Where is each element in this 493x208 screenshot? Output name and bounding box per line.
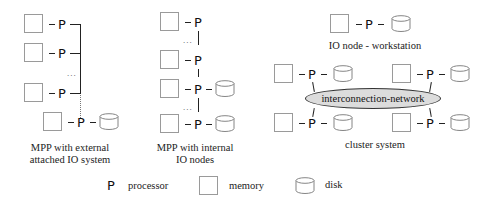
disk-icon — [450, 65, 470, 82]
memory-icon — [160, 50, 179, 69]
memory-icon — [274, 64, 293, 83]
panel-label: MPP with external attached IO system — [10, 142, 130, 166]
disk-icon — [215, 80, 235, 97]
connector — [356, 24, 362, 25]
processor-icon: P — [365, 18, 373, 31]
connector — [417, 74, 423, 75]
label-line: IO nodes — [140, 154, 250, 166]
connector — [299, 123, 305, 124]
network-link — [429, 82, 432, 92]
memory-icon — [160, 114, 179, 133]
connector — [439, 123, 445, 124]
connector — [185, 89, 191, 90]
panel-label: IO node - workstation — [320, 40, 430, 52]
memory-icon — [392, 113, 411, 132]
legend-label: memory — [229, 180, 264, 192]
connector — [68, 122, 74, 123]
processor-icon: P — [308, 68, 316, 81]
bus-line — [198, 98, 199, 112]
connector — [185, 22, 191, 23]
memory-icon — [24, 43, 43, 62]
disk-icon — [99, 113, 119, 130]
connector — [70, 24, 80, 25]
disk-icon — [333, 114, 353, 131]
memory-icon — [199, 176, 218, 195]
connector — [321, 74, 327, 75]
panel-label: MPP with internal IO nodes — [140, 142, 250, 166]
processor-icon: P — [194, 16, 202, 29]
processor-icon: P — [107, 179, 115, 192]
processor-icon: P — [194, 54, 202, 67]
connector — [49, 93, 55, 94]
processor-icon: P — [426, 68, 434, 81]
processor-icon: P — [58, 87, 66, 100]
connector — [49, 53, 55, 54]
connector — [185, 60, 191, 61]
label-line: MPP with external — [10, 142, 130, 154]
bus-line — [80, 24, 81, 94]
processor-icon: P — [58, 18, 66, 31]
connector — [417, 123, 423, 124]
connector — [70, 93, 80, 94]
memory-icon — [274, 113, 293, 132]
processor-icon: P — [194, 83, 202, 96]
processor-icon: P — [194, 118, 202, 131]
disk-icon — [295, 177, 315, 194]
memory-icon — [330, 14, 349, 33]
connector — [378, 24, 384, 25]
memory-icon — [392, 64, 411, 83]
bus-line — [198, 69, 199, 77]
connector — [49, 24, 55, 25]
label-line: attached IO system — [10, 154, 130, 166]
disk-icon — [391, 15, 411, 32]
ellipsis: ... — [67, 69, 77, 78]
connector — [206, 124, 212, 125]
processor-icon: P — [308, 117, 316, 130]
memory-icon — [24, 83, 43, 102]
connector — [439, 74, 445, 75]
network-link — [312, 82, 315, 92]
connector — [70, 53, 80, 54]
ellipsis: ... — [183, 36, 193, 45]
memory-icon — [43, 112, 62, 131]
connector — [185, 124, 191, 125]
memory-icon — [160, 79, 179, 98]
bus-line — [198, 31, 199, 45]
label-line: MPP with internal — [140, 142, 250, 154]
connector — [321, 123, 327, 124]
connector — [299, 74, 305, 75]
processor-icon: P — [58, 47, 66, 60]
memory-icon — [160, 12, 179, 31]
disk-icon — [333, 65, 353, 82]
legend-label: disk — [325, 179, 343, 191]
connector — [90, 122, 96, 123]
interconnection-network: interconnection-network — [305, 88, 441, 109]
disk-icon — [450, 114, 470, 131]
ellipsis: ... — [183, 103, 193, 112]
legend-label: processor — [128, 180, 168, 192]
processor-icon: P — [77, 116, 85, 129]
panel-label: cluster system — [320, 139, 430, 151]
processor-icon: P — [426, 117, 434, 130]
memory-icon — [24, 14, 43, 33]
disk-icon — [215, 115, 235, 132]
connector — [206, 89, 212, 90]
